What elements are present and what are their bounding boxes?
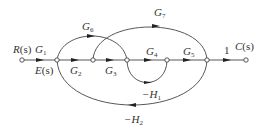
h2-label: −H2 xyxy=(124,113,143,127)
g5-label: G5 xyxy=(183,45,195,59)
g1-label: G1 xyxy=(35,43,47,57)
g4-arrow-icon xyxy=(144,58,152,62)
output-label: C(s) xyxy=(235,40,254,53)
signal-flow-graph: R(s) G1 E(s) G2 G3 G4 G5 1 C(s) G6 G7 −H… xyxy=(0,0,266,133)
g2-label: G2 xyxy=(70,64,82,78)
node-output xyxy=(244,58,248,62)
h1-branch xyxy=(127,60,167,83)
g1-arrow-icon xyxy=(36,58,44,62)
node-3 xyxy=(125,58,129,62)
g3-label: G3 xyxy=(105,64,117,78)
g3-arrow-icon xyxy=(106,58,114,62)
g7-label: G7 xyxy=(154,6,166,20)
g6-arrow-icon xyxy=(87,34,95,38)
node-4 xyxy=(165,58,169,62)
input-label: R(s) xyxy=(12,43,32,56)
unity-arrow-icon xyxy=(223,58,231,62)
unity-label: 1 xyxy=(224,44,230,56)
g6-branch xyxy=(57,36,127,60)
error-label: E(s) xyxy=(34,64,54,77)
g4-label: G4 xyxy=(146,45,158,59)
h1-label: −H1 xyxy=(142,88,161,102)
node-2 xyxy=(91,58,95,62)
h2-branch xyxy=(57,60,207,105)
h1-arrow-icon xyxy=(144,81,152,84)
g5-arrow-icon xyxy=(183,58,191,62)
h2-arrow-icon xyxy=(128,103,136,107)
node-5 xyxy=(205,58,209,62)
node-input xyxy=(20,58,24,62)
g2-arrow-icon xyxy=(71,58,79,62)
g6-label: G6 xyxy=(82,20,94,34)
node-error xyxy=(55,58,59,62)
